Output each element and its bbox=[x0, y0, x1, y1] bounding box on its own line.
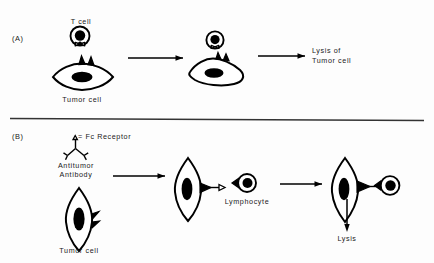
conjugate-a bbox=[189, 31, 243, 85]
t-cell-label: T cell bbox=[71, 17, 92, 27]
lymphocyte-label: Lymphocyte bbox=[225, 197, 270, 207]
lysis-outcome-line1: Lysis of bbox=[312, 46, 341, 56]
tumor-cell-target-a bbox=[53, 56, 113, 90]
figure-canvas: (A) T cell Tumor cell Lysis of Tumor cel… bbox=[0, 0, 434, 263]
lysis-label-b: Lysis bbox=[337, 234, 356, 244]
tumor-cell-target-b bbox=[66, 188, 100, 251]
antibody-label-line2: Antibody bbox=[60, 170, 93, 180]
panel-divider bbox=[10, 119, 424, 121]
panel-b-label: (B) bbox=[12, 132, 23, 142]
arrow-b-1 bbox=[113, 173, 165, 178]
tumor-cell-label-b: Tumor cell bbox=[59, 246, 98, 256]
tumor-cell-label-a: Tumor cell bbox=[62, 95, 101, 105]
arrow-b-2 bbox=[280, 181, 322, 186]
arrow-a-1 bbox=[128, 55, 183, 60]
t-cell-effector bbox=[71, 27, 90, 46]
lysis-outcome-line2: Tumor cell bbox=[312, 56, 351, 66]
conjugate-b bbox=[332, 158, 400, 222]
fc-receptor-symbol bbox=[73, 136, 77, 140]
arrow-a-2 bbox=[258, 53, 305, 58]
antitumor-antibody-icon bbox=[64, 140, 89, 160]
diagram-vector-layer bbox=[0, 0, 434, 263]
lymphocyte-effector bbox=[232, 174, 256, 192]
fc-receptor-label: = Fc Receptor bbox=[78, 132, 131, 142]
opsonized-tumor-cell bbox=[175, 158, 225, 221]
panel-a-label: (A) bbox=[12, 34, 23, 44]
